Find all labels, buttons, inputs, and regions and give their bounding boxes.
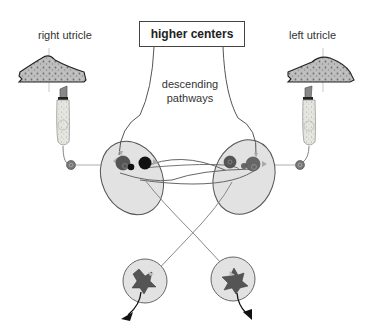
higher-centers-box: higher centers xyxy=(139,21,245,47)
left-nucleus-neuron-2 xyxy=(246,157,260,171)
right-nucleus-neuron-small xyxy=(128,164,135,171)
right-ganglion-cell xyxy=(67,161,76,170)
right-nucleus-neuron-black xyxy=(139,157,152,170)
higher-centers-label: higher centers xyxy=(151,27,234,41)
vestibular-diagram xyxy=(0,0,371,335)
right-afferent-fiber xyxy=(63,146,67,163)
descending-pathway-left xyxy=(119,47,154,155)
left-otolith-membrane xyxy=(288,57,354,82)
left-utricle-group xyxy=(271,48,354,170)
right-vestibular-nucleus xyxy=(89,131,175,225)
descending-label-line2: pathways xyxy=(160,91,220,105)
left-ganglion-cell xyxy=(296,161,305,170)
descending-label-line1: descending xyxy=(160,77,220,91)
descending-pathways-label: descending pathways xyxy=(160,77,220,105)
left-cuticular-plate xyxy=(303,97,313,100)
right-utricle-group xyxy=(19,48,104,170)
right-otolith-membrane xyxy=(19,56,86,82)
descending-pathway-right xyxy=(223,47,256,155)
left-hair-cell xyxy=(303,100,316,145)
right-cuticular-plate xyxy=(58,97,68,100)
left-nucleus-neuron-1 xyxy=(224,156,236,168)
left-vestibular-nucleus xyxy=(203,131,285,223)
right-utricle-label: right utricle xyxy=(38,29,92,41)
left-afferent-fiber xyxy=(302,146,309,163)
left-motor-output-arrow-icon xyxy=(121,312,133,321)
left-utricle-label: left utricle xyxy=(289,29,336,41)
